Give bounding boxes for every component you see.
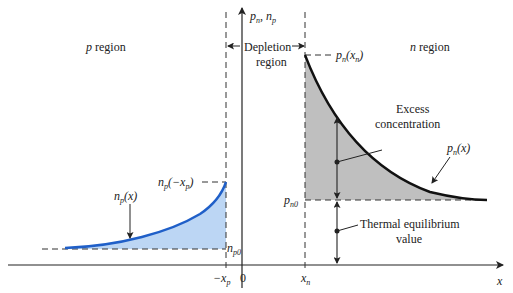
xn-label: xn [300,271,310,287]
thermal-equilibrium-label-line2: value [396,232,422,246]
np-neg-xp-label: np(−xp) [158,175,193,191]
pn-junction-diagram: pn, np x 0 −xp xn p region n region Depl… [0,0,513,293]
neg-xp-label: −xp [213,271,230,287]
depletion-region-label-line2: region [256,55,287,69]
origin-label: 0 [240,271,246,285]
p-region-label: p region [85,40,126,54]
thermal-equilibrium-label-line1: Thermal equilibrium [360,217,460,231]
n-region-label: n region [410,40,450,54]
pn-xn-label: pn(xn) [335,48,363,64]
excess-concentration-label-line1: Excess [396,102,430,116]
depletion-region-label-line1: Depletion [244,40,291,54]
x-axis-label: x [496,274,503,288]
pn-x-pointer-arrow [432,157,450,183]
y-axis-label: pn, np [249,9,276,25]
pn0-label: pn0 [283,193,298,209]
pn-x-label: pn(x) [446,141,470,157]
excess-concentration-label-line2: concentration [375,117,440,131]
thermal-leader-line [337,225,358,231]
diagram-canvas: pn, np x 0 −xp xn p region n region Depl… [0,0,513,293]
np-x-label: np(x) [114,189,137,205]
np0-label: np0 [227,241,241,257]
p-side-excess-area [65,182,226,249]
